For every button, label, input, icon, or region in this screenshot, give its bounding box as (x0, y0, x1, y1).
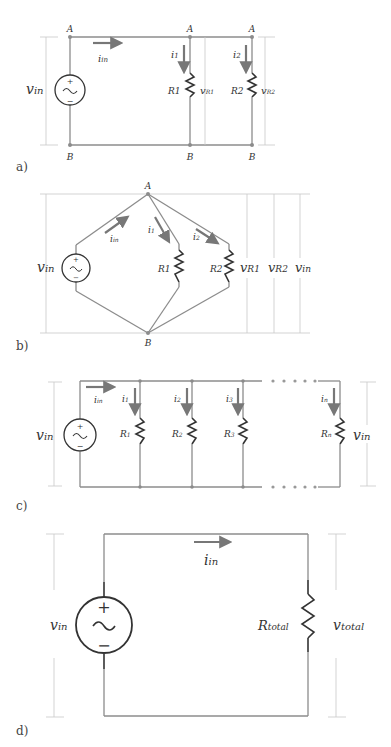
svg-text:+: + (73, 256, 79, 264)
svg-text:R1: R1 (157, 264, 171, 274)
panel-b-circuit: + − vin A B iin i1 i2 R1 R2 vR1 vR2 vin (37, 181, 318, 348)
svg-text:iin: iin (94, 395, 103, 405)
svg-text:A: A (144, 181, 152, 191)
svg-text:i3: i3 (226, 394, 233, 404)
svg-text:−: − (67, 97, 74, 106)
resistor-rn-icon (336, 418, 344, 444)
svg-text:R3: R3 (223, 429, 235, 439)
panel-a-circuit: + − vin A A A B B B iin i1 R1 vR1 (26, 24, 275, 162)
svg-text:−: − (97, 636, 110, 655)
svg-text:Rn: Rn (320, 429, 332, 439)
resistor-r3-icon (239, 418, 247, 444)
resistor-r2-icon (225, 250, 233, 282)
svg-text:R2: R2 (171, 429, 183, 439)
svg-text:vtotal: vtotal (333, 617, 364, 633)
panel-d-circuit: + − vin iin Rtotal vtotal (46, 534, 364, 717)
panel-a-label: a) (16, 160, 28, 174)
resistor-total-icon (302, 594, 314, 638)
source-voltage-label: vin (26, 81, 44, 97)
ac-source-icon: + − (76, 597, 132, 655)
svg-text:iin: iin (204, 552, 218, 568)
svg-text:+: + (77, 422, 84, 431)
ac-source-icon: + − (64, 419, 96, 451)
svg-text:A: A (248, 24, 256, 34)
svg-text:A: A (186, 24, 194, 34)
svg-text:i2: i2 (233, 49, 241, 60)
svg-text:i2: i2 (193, 232, 200, 242)
resistor-r1-icon (136, 418, 144, 444)
svg-text:R1: R1 (119, 429, 131, 439)
resistor-r1-icon (175, 250, 183, 282)
svg-text:iin: iin (110, 234, 119, 244)
ac-source-icon: + − (62, 254, 90, 282)
svg-text:+: + (97, 598, 110, 617)
svg-text:R2: R2 (230, 86, 244, 96)
parallel-circuits-figure: + − vin A A A B B B iin i1 R1 vR1 (0, 0, 391, 747)
svg-text:in: in (321, 394, 328, 404)
svg-text:Rtotal: Rtotal (257, 618, 289, 633)
resistor-r2-icon (248, 73, 256, 97)
svg-text:i2: i2 (174, 394, 181, 404)
svg-text:R2: R2 (209, 264, 223, 274)
panel-c-label: c) (16, 499, 27, 513)
panel-d-label: d) (16, 724, 28, 738)
panel-c-circuit: + − vin iin i1 R1 i2 R2 i3 R3 (36, 379, 388, 489)
svg-text:B: B (186, 152, 194, 162)
svg-text:B: B (248, 152, 256, 162)
svg-text:A: A (66, 24, 74, 34)
svg-text:i1: i1 (122, 394, 129, 404)
svg-text:B: B (66, 152, 74, 162)
resistor-r2-icon (188, 418, 196, 444)
svg-text:i1: i1 (171, 49, 179, 60)
panel-b-label: b) (16, 339, 28, 353)
svg-text:vR1: vR1 (200, 85, 214, 96)
svg-text:vin: vin (50, 617, 68, 633)
resistor-r1-icon (186, 73, 194, 97)
svg-text:vR2: vR2 (261, 85, 275, 96)
svg-text:B: B (144, 338, 152, 348)
svg-text:R1: R1 (167, 86, 181, 96)
svg-text:i1: i1 (148, 225, 155, 235)
svg-text:−: − (77, 442, 84, 451)
svg-text:vin: vin (36, 427, 54, 443)
svg-text:+: + (67, 77, 74, 86)
svg-text:−: − (73, 274, 79, 282)
svg-text:iin: iin (98, 53, 108, 64)
ac-source-icon: + − (55, 75, 85, 106)
